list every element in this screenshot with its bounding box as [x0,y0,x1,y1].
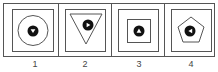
option-4[interactable] [165,3,215,57]
option-label: 3 [129,59,149,69]
option-label: 2 [75,59,95,69]
option-label: 4 [181,59,201,69]
pentagon-icon [165,3,215,57]
circle-icon [3,3,58,57]
option-1[interactable] [3,3,58,57]
option-label: 1 [25,59,45,69]
option-2[interactable] [59,3,111,57]
square-icon [112,3,164,57]
triangle-down-icon [59,3,111,57]
option-3[interactable] [112,3,164,57]
